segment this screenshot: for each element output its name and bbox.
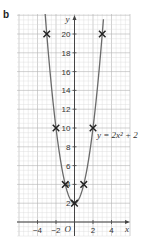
y-tick-label: 8 bbox=[66, 143, 71, 152]
x-tick-label: 4 bbox=[109, 226, 114, 235]
x-tick-label: 2 bbox=[91, 226, 96, 235]
y-tick-label: 16 bbox=[62, 68, 71, 77]
y-tick-label: 10 bbox=[62, 124, 71, 133]
y-tick-label: 6 bbox=[66, 162, 71, 171]
y-tick-label: 12 bbox=[62, 105, 71, 114]
y-axis-arrow-icon bbox=[73, 15, 77, 20]
y-tick-label: 20 bbox=[62, 30, 71, 39]
parabola-chart: −4−2242468101214161820 x y O y = 2x² + 2 bbox=[0, 0, 152, 241]
y-tick-label: 14 bbox=[62, 86, 71, 95]
x-tick-label: −4 bbox=[33, 226, 43, 235]
y-axis-label: y bbox=[65, 14, 70, 24]
x-tick-label: −2 bbox=[51, 226, 61, 235]
y-tick-label: 18 bbox=[62, 49, 71, 58]
origin-label: O bbox=[65, 224, 72, 234]
equation-label: y = 2x² + 2 bbox=[96, 130, 138, 140]
x-axis-label: x bbox=[124, 224, 129, 234]
